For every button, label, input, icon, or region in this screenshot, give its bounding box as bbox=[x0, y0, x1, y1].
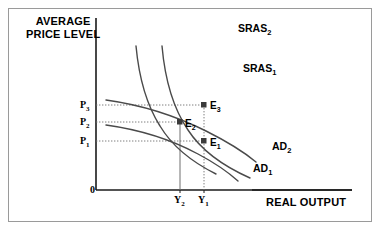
y-tick-p2-sub: 2 bbox=[86, 122, 90, 130]
sras-curves bbox=[136, 46, 250, 178]
y-tick-p2: P2 bbox=[80, 116, 90, 130]
e2-label-base: E bbox=[185, 118, 192, 129]
ad2-label-base: AD bbox=[272, 140, 287, 152]
x-tick-y1: Y1 bbox=[198, 194, 209, 208]
e1-label-sub: 1 bbox=[217, 143, 221, 150]
ad-curves bbox=[106, 100, 256, 181]
y-axis-title-line1: AVERAGE bbox=[26, 15, 100, 28]
ad2-label: AD2 bbox=[272, 140, 291, 155]
x-tick-y2-sub: 2 bbox=[181, 200, 185, 208]
sras2-label: SRAS2 bbox=[238, 22, 271, 37]
y-tick-p3-sub: 3 bbox=[86, 105, 90, 113]
ad1-label: AD1 bbox=[253, 162, 272, 177]
sras2-curve bbox=[136, 46, 216, 174]
diagram-page: AVERAGE PRICE LEVEL REAL OUTPUT 0 P3 P2 … bbox=[0, 0, 382, 232]
sras1-label: SRAS1 bbox=[243, 62, 276, 77]
x-tick-y2: Y2 bbox=[174, 194, 185, 208]
e2-label: E2 bbox=[185, 118, 196, 131]
ad1-label-base: AD bbox=[253, 162, 268, 174]
e1-label: E1 bbox=[210, 137, 221, 150]
x-axis-title: REAL OUTPUT bbox=[266, 196, 346, 209]
origin-label: 0 bbox=[90, 184, 95, 195]
marker-e3 bbox=[201, 102, 207, 108]
e1-label-base: E bbox=[210, 137, 217, 148]
e3-label: E3 bbox=[210, 100, 221, 113]
y-axis-title: AVERAGE PRICE LEVEL bbox=[26, 15, 100, 40]
y-tick-p1-sub: 1 bbox=[86, 141, 90, 149]
e3-label-sub: 3 bbox=[217, 106, 221, 113]
e3-label-base: E bbox=[210, 100, 217, 111]
y-axis-title-line2: PRICE LEVEL bbox=[26, 28, 100, 41]
marker-e2 bbox=[177, 119, 183, 125]
ad1-label-sub: 1 bbox=[268, 168, 272, 177]
y-tick-p1: P1 bbox=[80, 135, 90, 149]
marker-e1 bbox=[201, 138, 207, 144]
ad2-curve bbox=[106, 100, 256, 162]
ad1-curve bbox=[106, 125, 238, 181]
sras2-label-base: SRAS bbox=[238, 22, 267, 34]
ad2-label-sub: 2 bbox=[287, 146, 291, 155]
e2-label-sub: 2 bbox=[192, 124, 196, 131]
y-tick-p3: P3 bbox=[80, 99, 90, 113]
sras2-label-sub: 2 bbox=[267, 28, 271, 37]
sras1-label-sub: 1 bbox=[272, 68, 276, 77]
sras1-label-base: SRAS bbox=[243, 62, 272, 74]
x-tick-y1-sub: 1 bbox=[205, 200, 209, 208]
